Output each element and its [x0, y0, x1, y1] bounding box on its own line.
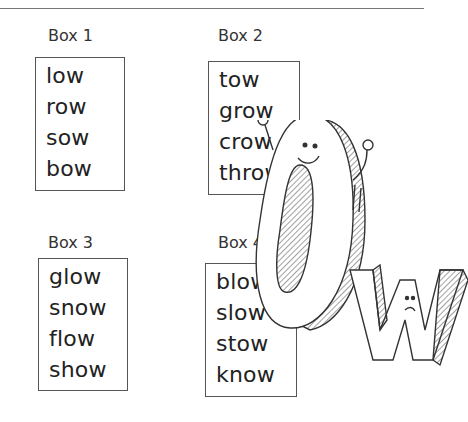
word: row: [46, 91, 124, 122]
word: sow: [46, 122, 124, 153]
box-1: low row sow bow: [35, 57, 125, 191]
box-3: glow snow flow show: [38, 258, 128, 391]
word: low: [46, 60, 124, 91]
word: show: [49, 354, 127, 385]
box-3-label: Box 3: [48, 233, 93, 252]
word: tow: [219, 64, 299, 95]
word: glow: [49, 261, 127, 292]
box-2-label: Box 2: [218, 26, 263, 45]
word: snow: [49, 292, 127, 323]
word: flow: [49, 323, 127, 354]
word: bow: [46, 153, 124, 184]
ow-cartoon-illustration: [255, 120, 468, 380]
top-divider: [0, 8, 424, 9]
box-1-label: Box 1: [48, 26, 93, 45]
